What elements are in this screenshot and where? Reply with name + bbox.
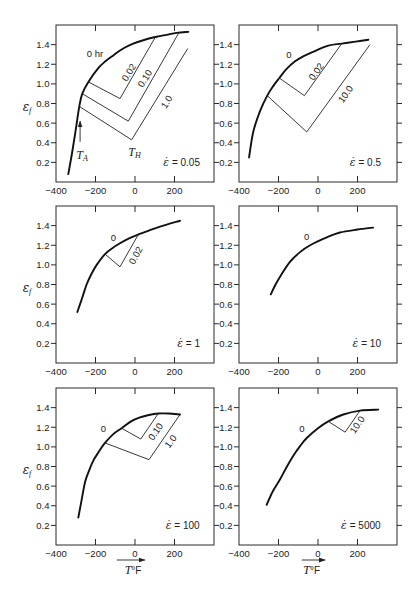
label-text: 1.0 — [162, 432, 179, 449]
y-axis-label-subscript: f — [29, 468, 33, 477]
y-tick-label: 1.4 — [36, 39, 49, 50]
x-tick-label: −200 — [268, 548, 289, 559]
label-subscript: A — [82, 154, 88, 163]
strain-rate-label: ε̇= 100 — [166, 519, 200, 531]
label-text: 10.0 — [347, 414, 366, 435]
y-tick-label: 0.8 — [36, 98, 49, 109]
x-tick-label: 0 — [315, 548, 320, 559]
curve-label: 0.10 — [145, 420, 165, 441]
x-tick-label: −200 — [85, 185, 106, 196]
chart-panel-6: 0.20.40.60.81.01.21.4−400−2000200010.0ε̇… — [219, 388, 402, 577]
y-tick-label: 0.8 — [36, 461, 49, 472]
x-tick-label: 200 — [167, 185, 183, 196]
x-axis-label-unit: °F — [310, 565, 320, 576]
y-tick-label: 0.8 — [219, 461, 232, 472]
label-text: 0 hr — [87, 48, 103, 59]
y-tick-label: 1.0 — [219, 259, 232, 270]
y-tick-label: 1.0 — [219, 78, 232, 89]
strain-rate-value: = 100 — [174, 520, 200, 531]
chart-panel-1: 0.20.40.60.81.01.21.4−400−20002000 hr0.0… — [23, 25, 219, 196]
y-axis: 0.20.40.60.81.01.21.4 — [219, 402, 402, 531]
aging-curve-10-0 — [267, 45, 370, 132]
y-tick-label: 0.6 — [36, 299, 49, 310]
x-axis-label: T°F — [125, 563, 142, 577]
y-axis-label: εf — [23, 100, 33, 115]
baseline-curve-0 — [78, 413, 180, 517]
annotations: 0 hr0.020.101.0TATH — [76, 48, 174, 163]
x-tick-label: −200 — [268, 185, 289, 196]
annotations: 0 — [304, 231, 309, 242]
temperature-marker-label: TH — [128, 145, 142, 160]
x-axis-label-unit: °F — [131, 565, 141, 576]
strain-rate-symbol: ε̇ — [177, 337, 183, 349]
label-text: 0.10 — [145, 420, 165, 441]
y-tick-label: 0.2 — [219, 338, 232, 349]
strain-rate-label: ε̇= 0.05 — [163, 156, 200, 168]
x-tick-label: 200 — [350, 185, 366, 196]
x-tick-label: −200 — [85, 366, 106, 377]
series-group — [78, 413, 180, 517]
y-tick-label: 0.2 — [36, 520, 49, 531]
curve-label: 10.0 — [347, 414, 366, 435]
series-group — [77, 221, 180, 312]
strain-rate-symbol: ε̇ — [163, 156, 169, 168]
label-text: 1.0 — [158, 93, 174, 110]
y-tick-label: 0.4 — [36, 500, 49, 511]
y-tick-label: 1.2 — [36, 422, 49, 433]
x-tick-label: 0 — [132, 548, 137, 559]
x-tick-label: −400 — [45, 366, 66, 377]
x-tick-label: 0 — [132, 185, 137, 196]
curve-label: 0 hr — [87, 48, 103, 59]
y-tick-label: 1.0 — [36, 259, 49, 270]
y-tick-label: 1.2 — [219, 422, 232, 433]
annotations: 00.0210.0 — [286, 49, 355, 104]
y-axis: 0.20.40.60.81.01.21.4 — [219, 39, 402, 168]
y-axis-label: εf — [23, 463, 33, 478]
strain-rate-value: = 5000 — [350, 520, 381, 531]
aging-curve-1-0 — [79, 49, 187, 140]
chart-panel-3: 0.20.40.60.81.01.21.4−400−200020000.02ε̇… — [23, 206, 219, 377]
y-tick-label: 1.2 — [36, 59, 49, 70]
curve-label: 0.02 — [126, 244, 144, 265]
y-tick-label: 0.2 — [36, 338, 49, 349]
y-tick-label: 0.6 — [36, 118, 49, 129]
curve-label: 0 — [304, 231, 309, 242]
y-tick-label: 0.2 — [219, 520, 232, 531]
strain-rate-label: ε̇= 10 — [353, 337, 382, 349]
label-text: 0 — [101, 423, 106, 434]
x-tick-label: −400 — [45, 185, 66, 196]
label-text: 10.0 — [335, 83, 355, 104]
y-tick-label: 0.4 — [219, 318, 232, 329]
label-text: 0 — [111, 232, 116, 243]
curve-label: 1.0 — [162, 432, 179, 449]
baseline-curve-0 — [271, 228, 373, 295]
y-tick-label: 0.4 — [219, 500, 232, 511]
x-tick-label: 0 — [132, 366, 137, 377]
y-tick-label: 1.4 — [219, 402, 232, 413]
y-tick-label: 1.0 — [219, 441, 232, 452]
x-tick-label: −400 — [45, 548, 66, 559]
y-tick-label: 0.8 — [219, 98, 232, 109]
y-axis-label: εf — [23, 281, 33, 296]
curve-label: 0 — [101, 423, 106, 434]
series-group — [249, 40, 370, 158]
y-tick-label: 1.2 — [219, 240, 232, 251]
x-axis: −400−2000200 — [45, 25, 182, 196]
x-axis-label: T°F — [303, 563, 320, 577]
curve-label: 10.0 — [335, 83, 355, 104]
curve-label: 1.0 — [158, 93, 174, 110]
temperature-marker-label: TA — [76, 148, 88, 163]
y-tick-label: 0.6 — [219, 299, 232, 310]
y-tick-label: 0.4 — [36, 318, 49, 329]
strain-rate-label: ε̇= 1 — [177, 337, 200, 349]
annotations: 00.02 — [111, 232, 145, 266]
x-tick-label: −200 — [85, 548, 106, 559]
chart-panel-5: 0.20.40.60.81.01.21.4−400−200020000.101.… — [23, 388, 219, 577]
strain-rate-value: = 1 — [186, 338, 201, 349]
y-tick-label: 1.4 — [36, 402, 49, 413]
y-tick-label: 1.0 — [36, 441, 49, 452]
y-tick-label: 1.2 — [36, 240, 49, 251]
y-tick-label: 1.0 — [36, 78, 49, 89]
y-tick-label: 1.2 — [219, 59, 232, 70]
y-axis: 0.20.40.60.81.01.21.4 — [219, 220, 402, 349]
